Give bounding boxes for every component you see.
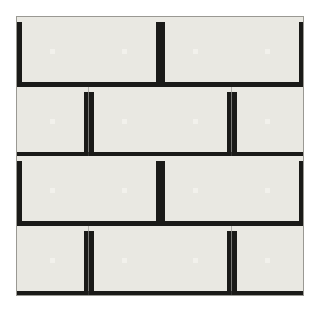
quilt-block-r1-c4 [232, 17, 304, 87]
quilt-block-r4-c1 [17, 226, 89, 296]
quilt-block-r3-c4 [232, 156, 304, 226]
quilt-canvas [0, 0, 321, 314]
quilt-block-r2-c4 [232, 87, 304, 157]
quilt-block-r2-c1 [17, 87, 89, 157]
quilt-block-r3-c1 [17, 156, 89, 226]
quilt-block-r2-c3 [160, 87, 232, 157]
quilt-block-r3-c2 [89, 156, 161, 226]
quilt-block-r1-c2 [89, 17, 161, 87]
quilt-block-r1-c1 [17, 17, 89, 87]
quilt-block-r4-c3 [160, 226, 232, 296]
quilt-block-r1-c3 [160, 17, 232, 87]
quilt-grid [16, 16, 304, 296]
quilt-block-r4-c4 [232, 226, 304, 296]
quilt-block-r2-c2 [89, 87, 161, 157]
quilt-block-r4-c2 [89, 226, 161, 296]
quilt-block-r3-c3 [160, 156, 232, 226]
